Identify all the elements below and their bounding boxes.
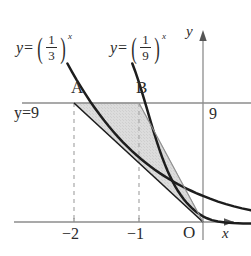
point-label-A: A	[71, 79, 83, 96]
y-axis-label: y	[186, 24, 193, 39]
x-tick-label-minus-1: −1	[127, 226, 144, 242]
fraction-denominator: 9	[140, 49, 151, 62]
x-tick-label-minus-2: −2	[62, 226, 79, 242]
fraction-numerator: 1	[140, 33, 151, 46]
exponent-x: x	[162, 31, 166, 41]
curve-label-one-third-lhs: y=	[16, 39, 34, 57]
curve-label-one-ninth: y= ( 1 9 ) x	[110, 33, 166, 63]
origin-label: O	[183, 224, 195, 241]
right-paren-glyph: )	[60, 34, 66, 61]
fraction-one-ninth: 1 9	[139, 33, 152, 63]
fraction-one-third: 1 3	[45, 33, 58, 63]
curve-label-one-ninth-lhs: y=	[110, 39, 128, 57]
fraction-numerator: 1	[46, 33, 57, 46]
fraction-denominator: 3	[46, 49, 57, 62]
curve-one-third-power-x	[67, 64, 251, 211]
point-label-B: B	[136, 79, 147, 96]
math-figure: y= ( 1 3 ) x y= ( 1 9 ) x y x O y=9 9 A …	[0, 0, 251, 256]
left-paren-glyph: (	[37, 34, 43, 61]
x-axis-label: x	[222, 226, 229, 241]
exponent-x: x	[68, 31, 72, 41]
right-paren-glyph: )	[154, 34, 160, 61]
horizontal-line-label: y=9	[14, 105, 39, 121]
curve-label-one-third: y= ( 1 3 ) x	[16, 33, 72, 63]
left-paren-glyph: (	[131, 34, 137, 61]
y-value-label-9: 9	[209, 106, 217, 122]
y-axis-arrow-icon	[199, 30, 206, 41]
